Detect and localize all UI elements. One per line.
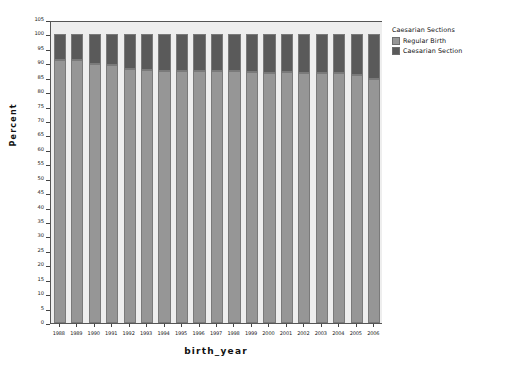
bar-group[interactable] <box>141 20 153 323</box>
bar-segment-caesarian-section[interactable] <box>333 34 345 73</box>
bar-group[interactable] <box>71 20 83 323</box>
bars-layer <box>51 22 382 323</box>
x-axis-tick-label: 2001 <box>280 330 292 336</box>
x-axis-tick-mark <box>94 324 95 327</box>
bar-segment-caesarian-section[interactable] <box>124 34 136 69</box>
y-axis-tick: 15 <box>46 281 50 282</box>
bar-segment-caesarian-section[interactable] <box>246 34 258 71</box>
bar-segment-regular-birth[interactable] <box>158 71 170 323</box>
x-axis-tick-label: 1993 <box>140 330 152 336</box>
bar-segment-caesarian-section[interactable] <box>141 34 153 70</box>
y-axis-tick: 95 <box>46 50 50 51</box>
bar-segment-regular-birth[interactable] <box>333 73 345 323</box>
bar-segment-regular-birth[interactable] <box>228 71 240 323</box>
y-axis-tick-mark <box>46 122 50 123</box>
bar-segment-caesarian-section[interactable] <box>298 34 310 72</box>
bar-segment-regular-birth[interactable] <box>298 73 310 323</box>
bar-group[interactable] <box>193 20 205 323</box>
bar-segment-caesarian-section[interactable] <box>71 34 83 60</box>
legend-entry[interactable]: Caesarian Section <box>392 47 504 55</box>
bar-segment-regular-birth[interactable] <box>193 71 205 323</box>
y-axis-tick-label: 45 <box>38 189 44 195</box>
bar-segment-regular-birth[interactable] <box>89 64 101 323</box>
bar-group[interactable] <box>124 20 136 323</box>
bar-group[interactable] <box>106 20 118 323</box>
legend-entry-label: Regular Birth <box>403 37 446 45</box>
bar-segment-caesarian-section[interactable] <box>106 34 118 65</box>
y-axis-tick-mark <box>46 165 50 166</box>
bar-segment-caesarian-section[interactable] <box>228 34 240 71</box>
bar-segment-regular-birth[interactable] <box>106 65 118 323</box>
bar-segment-caesarian-section[interactable] <box>54 34 66 59</box>
bar-segment-regular-birth[interactable] <box>124 69 136 323</box>
bar-segment-regular-birth[interactable] <box>351 75 363 323</box>
y-axis-tick-label: 20 <box>38 261 44 267</box>
x-axis-tick-mark <box>321 324 322 327</box>
x-axis-tick-label: 1990 <box>88 330 100 336</box>
bar-group[interactable] <box>89 20 101 323</box>
bar-segment-regular-birth[interactable] <box>263 73 275 323</box>
bar-segment-regular-birth[interactable] <box>281 72 293 323</box>
x-axis-tick-label: 1999 <box>245 330 257 336</box>
bar-segment-caesarian-section[interactable] <box>316 34 328 73</box>
bar-group[interactable] <box>54 20 66 323</box>
bar-group[interactable] <box>263 20 275 323</box>
y-axis-tick-label: 65 <box>38 131 44 137</box>
bar-group[interactable] <box>351 20 363 323</box>
y-axis-tick-label: 70 <box>38 117 44 123</box>
x-axis-tick-mark <box>356 324 357 327</box>
x-axis-tick-label: 2006 <box>367 330 379 336</box>
x-axis-tick-label: 1995 <box>175 330 187 336</box>
bar-segment-regular-birth[interactable] <box>141 70 153 323</box>
y-axis-tick-label: 90 <box>38 59 44 65</box>
bar-group[interactable] <box>246 20 258 323</box>
bar-group[interactable] <box>211 20 223 323</box>
y-axis-tick-mark <box>46 237 50 238</box>
bar-segment-caesarian-section[interactable] <box>281 34 293 72</box>
y-axis-tick-label: 85 <box>38 74 44 80</box>
y-axis-tick-label: 75 <box>38 103 44 109</box>
bar-segment-regular-birth[interactable] <box>368 79 380 323</box>
bar-group[interactable] <box>298 20 310 323</box>
y-axis-tick: 60 <box>46 151 50 152</box>
y-axis-tick-label: 95 <box>38 45 44 51</box>
bar-segment-caesarian-section[interactable] <box>158 34 170 70</box>
bar-segment-caesarian-section[interactable] <box>263 34 275 72</box>
y-axis-tick: 30 <box>46 237 50 238</box>
y-axis-tick-label: 35 <box>38 218 44 224</box>
bar-group[interactable] <box>228 20 240 323</box>
bar-group[interactable] <box>368 20 380 323</box>
bar-segment-regular-birth[interactable] <box>176 71 188 323</box>
x-axis-tick-label: 1998 <box>227 330 239 336</box>
bar-group[interactable] <box>158 20 170 323</box>
y-axis-tick: 105 <box>46 21 50 22</box>
bar-segment-caesarian-section[interactable] <box>193 34 205 71</box>
bar-segment-regular-birth[interactable] <box>54 60 66 323</box>
bar-segment-caesarian-section[interactable] <box>211 34 223 71</box>
x-axis-tick-mark <box>216 324 217 327</box>
y-axis-tick-mark <box>46 79 50 80</box>
bar-segment-caesarian-section[interactable] <box>368 34 380 79</box>
x-axis-tick-mark <box>233 324 234 327</box>
y-axis-tick-mark <box>46 151 50 152</box>
y-axis-tick: 100 <box>46 35 50 36</box>
bar-segment-regular-birth[interactable] <box>246 72 258 323</box>
x-axis-tick-label: 2003 <box>315 330 327 336</box>
y-axis-tick-mark <box>46 136 50 137</box>
x-axis-tick-label: 1994 <box>158 330 170 336</box>
bar-segment-regular-birth[interactable] <box>71 60 83 323</box>
x-axis-tick-label: 1991 <box>105 330 117 336</box>
legend-entry[interactable]: Regular Birth <box>392 37 504 45</box>
bar-segment-caesarian-section[interactable] <box>351 34 363 75</box>
bar-group[interactable] <box>333 20 345 323</box>
bar-group[interactable] <box>281 20 293 323</box>
y-axis-tick-label: 105 <box>34 16 44 22</box>
y-axis-tick-label: 5 <box>41 305 44 311</box>
bar-group[interactable] <box>176 20 188 323</box>
bar-segment-caesarian-section[interactable] <box>89 34 101 64</box>
bar-segment-regular-birth[interactable] <box>316 73 328 323</box>
bar-segment-caesarian-section[interactable] <box>176 34 188 70</box>
bar-segment-regular-birth[interactable] <box>211 71 223 323</box>
bar-group[interactable] <box>316 20 328 323</box>
legend-swatch-icon <box>392 37 400 45</box>
